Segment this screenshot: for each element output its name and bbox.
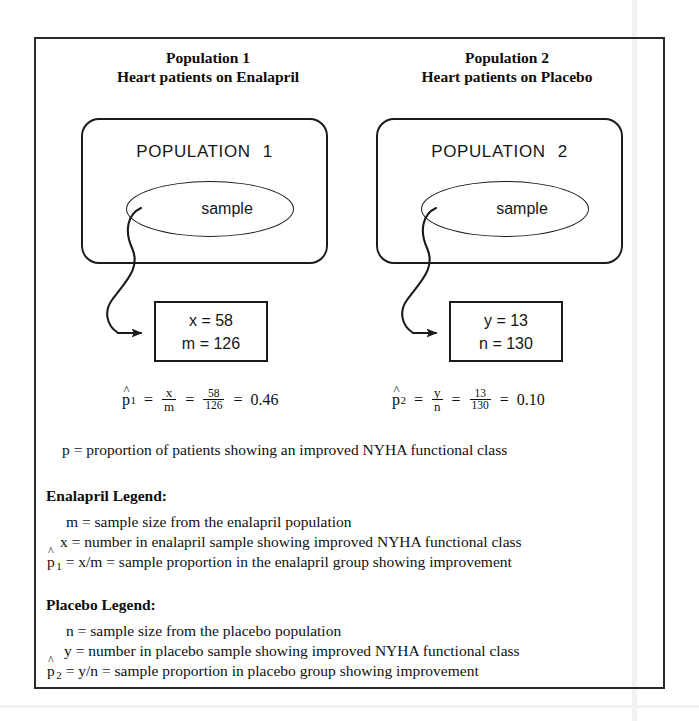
population-box-1: POPULATION1 sample [81,118,328,264]
fraction-denominator-var-1: m [162,399,176,413]
population-box-2: POPULATION2 sample [376,118,623,264]
enalapril-legend-heading: Enalapril Legend: [46,487,167,505]
inline-p-hat-2: ^p [47,662,55,680]
sample-label-2: sample [422,182,588,236]
hat-accent-2: ^ [393,383,401,396]
data-box-1: x = 58 m = 126 [154,301,268,362]
fraction-numerator-var-1: x [164,386,175,399]
equals-2b: = [452,391,461,409]
sample-ellipse-2: sample [421,181,589,237]
placebo-legend-heading: Placebo Legend: [46,596,156,614]
placebo-legend-line-phat: ^p2 = y/n = sample proportion in placebo… [47,662,479,681]
data-box-2: y = 13 n = 130 [449,301,563,362]
enalapril-legend-line-phat: ^p1 = x/m = sample proportion in the ena… [47,553,512,572]
equals-1c: = [233,391,242,409]
population-box-2-number: 2 [558,142,568,161]
population-box-1-label-text: POPULATION [136,142,250,161]
equals-2c: = [500,391,509,409]
population-2-title-line2: Heart patients on Placebo [362,67,652,86]
enalapril-legend-line-m: m = sample size from the enalapril popul… [66,513,352,531]
sample-label-1: sample [127,182,293,236]
fraction-numerator-num-2: 13 [472,388,488,400]
inline-hat-accent-1: ^ [47,545,55,557]
population-box-2-label-text: POPULATION [431,142,545,161]
p-hat-subscript-1: 1 [131,394,137,406]
equals-2a: = [414,391,423,409]
population-2-title-line1: Population 2 [362,48,652,67]
proportion-result-1: 0.46 [250,391,278,409]
population-box-2-label: POPULATION2 [378,142,621,162]
column-header-population-2: Population 2 Heart patients on Placebo [362,48,652,86]
data-box-2-line2: n = 130 [479,332,533,355]
data-box-1-line2: m = 126 [182,332,240,355]
enalapril-legend-line-phat-rest: = x/m = sample proportion in the enalapr… [62,553,512,570]
placebo-legend-line-n: n = sample size from the placebo populat… [66,622,341,640]
population-1-title-line1: Population 1 [63,48,353,67]
inline-p-hat-1: ^p [47,553,55,571]
fraction-denominator-num-2: 130 [470,399,491,412]
equals-1b: = [185,391,194,409]
fraction-denominator-num-1: 126 [203,399,224,412]
fraction-numerator-var-2: y [432,386,443,399]
hat-accent-1: ^ [123,383,131,396]
figure-page: Population 1 Heart patients on Enalapril… [0,0,699,721]
fraction-variables-1: x m [162,386,176,414]
p-hat-symbol-2: ^p [392,391,400,409]
fraction-variables-2: y n [432,386,443,414]
placebo-legend-line-y: y = number in placebo sample showing imp… [64,642,520,660]
fraction-numbers-2: 13 130 [470,388,491,412]
placebo-legend-line-phat-rest: = y/n = sample proportion in placebo gro… [62,662,479,679]
inline-hat-accent-2: ^ [47,654,55,666]
data-box-2-line1: y = 13 [484,309,528,332]
population-1-title-line2: Heart patients on Enalapril [63,67,353,86]
fraction-denominator-var-2: n [432,399,443,413]
data-box-1-line1: x = 58 [189,309,233,332]
proportion-formula-1: ^p1 = x m = 58 126 = 0.46 [122,386,278,414]
p-definition-line: p = proportion of patients showing an im… [62,441,507,459]
proportion-result-2: 0.10 [517,391,545,409]
p-hat-subscript-2: 2 [401,394,407,406]
sample-ellipse-1: sample [126,181,294,237]
p-hat-symbol-1: ^p [122,391,130,409]
population-box-1-label: POPULATION1 [83,142,326,162]
enalapril-legend-line-x: x = number in enalapril sample showing i… [60,533,522,551]
column-header-population-1: Population 1 Heart patients on Enalapril [63,48,353,86]
scan-artifact-horizontal [0,705,699,708]
fraction-numbers-1: 58 126 [203,388,224,412]
population-box-1-number: 1 [263,142,273,161]
fraction-numerator-num-1: 58 [206,388,222,400]
proportion-formula-2: ^p2 = y n = 13 130 = 0.10 [392,386,545,414]
equals-1a: = [144,391,153,409]
